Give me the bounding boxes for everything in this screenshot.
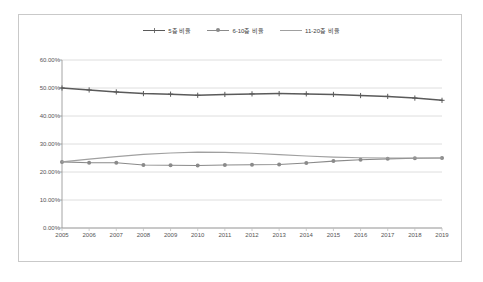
- legend-label-0: 5층 비율: [168, 26, 191, 35]
- x-axis-labels: 2005200620072008200920102011201220132014…: [0, 232, 483, 246]
- x-axis-tick-label: 2019: [435, 232, 448, 238]
- legend-marker-dot-icon: [216, 28, 220, 32]
- x-axis-tick-label: 2008: [137, 232, 150, 238]
- legend-item-1[interactable]: 6-10층 비율: [207, 26, 264, 35]
- y-axis-tick-label: 0.00%: [43, 225, 60, 231]
- chart-legend: 5층 비율 6-10층 비율 11-20층 비율: [0, 26, 483, 35]
- x-axis-tick-label: 2016: [354, 232, 367, 238]
- legend-item-0[interactable]: 5층 비율: [143, 26, 191, 35]
- x-axis-tick-label: 2017: [381, 232, 394, 238]
- legend-swatch-0: [143, 27, 165, 34]
- legend-marker-cross-icon: [152, 28, 157, 34]
- legend-label-1: 6-10층 비율: [232, 26, 264, 35]
- x-axis-tick-label: 2014: [300, 232, 313, 238]
- x-axis-tick-label: 2018: [408, 232, 421, 238]
- x-axis-tick-label: 2005: [55, 232, 68, 238]
- x-axis-tick-label: 2015: [327, 232, 340, 238]
- legend-swatch-2: [280, 27, 302, 34]
- x-axis-tick-label: 2006: [82, 232, 95, 238]
- y-axis-tick-label: 40.00%: [40, 113, 60, 119]
- y-axis-tick-label: 50.00%: [40, 85, 60, 91]
- x-axis-tick-label: 2011: [218, 232, 231, 238]
- chart-page: 5층 비율 6-10층 비율 11-20층 비율 0.00%10.00%20.0…: [0, 0, 483, 282]
- x-axis-tick-label: 2010: [191, 232, 204, 238]
- y-axis-tick-label: 20.00%: [40, 169, 60, 175]
- legend-swatch-1: [207, 27, 229, 34]
- x-axis-tick-label: 2012: [245, 232, 258, 238]
- y-axis-tick-label: 10.00%: [40, 197, 60, 203]
- legend-item-2[interactable]: 11-20층 비율: [280, 26, 340, 35]
- x-axis-tick-label: 2013: [272, 232, 285, 238]
- y-axis-tick-label: 30.00%: [40, 141, 60, 147]
- x-axis-tick-label: 2007: [110, 232, 123, 238]
- x-axis-tick-label: 2009: [164, 232, 177, 238]
- legend-line-2: [280, 30, 302, 31]
- chart-frame: [18, 14, 462, 262]
- y-axis-tick-label: 60.00%: [40, 57, 60, 63]
- legend-label-2: 11-20층 비율: [305, 26, 340, 35]
